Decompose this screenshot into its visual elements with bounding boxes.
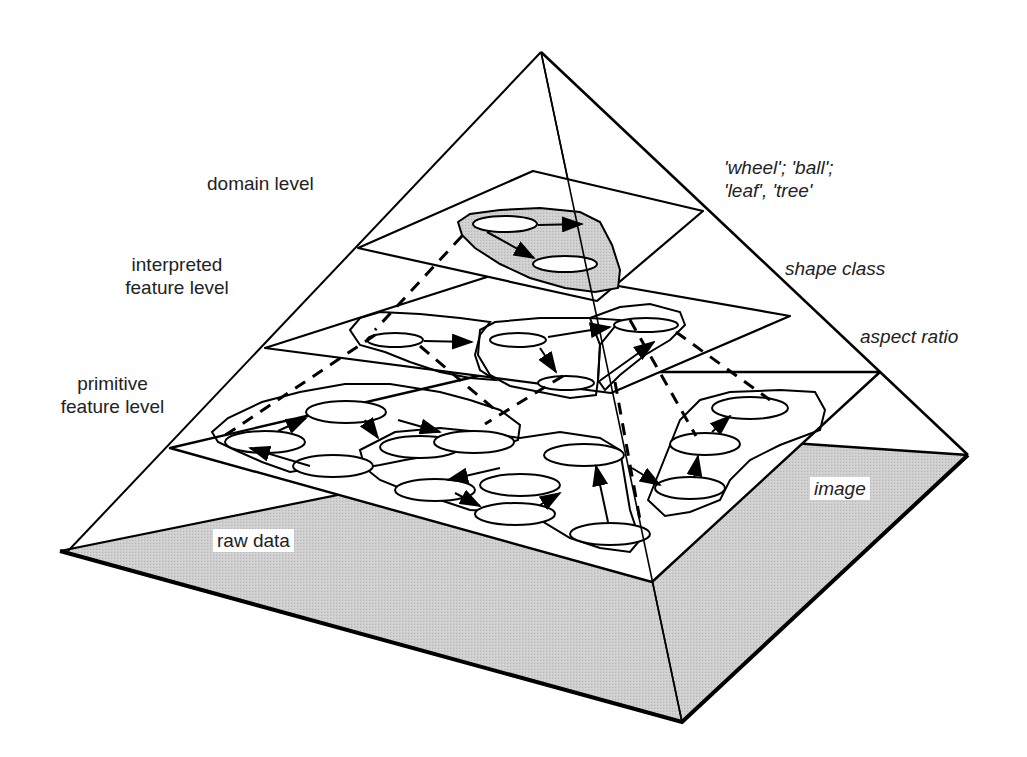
label-primitive-feature-level: primitive feature level [40, 372, 185, 418]
label-domain-level: domain level [207, 172, 314, 195]
label-raw-data: raw data [213, 529, 294, 552]
label-domain-examples-line2: 'leaf', 'tree' [724, 179, 834, 202]
label-shape-class: shape class [785, 257, 885, 280]
label-image: image [810, 477, 870, 500]
label-primitive-line2: feature level [40, 395, 185, 418]
label-interpreted-line2: feature level [107, 276, 247, 299]
label-domain-examples: 'wheel'; 'ball'; 'leaf', 'tree' [724, 156, 834, 202]
label-primitive-line1: primitive [40, 372, 185, 395]
label-domain-examples-line1: 'wheel'; 'ball'; [724, 156, 834, 179]
label-interpreted-line1: interpreted [107, 253, 247, 276]
label-aspect-ratio: aspect ratio [860, 325, 958, 348]
label-interpreted-feature-level: interpreted feature level [107, 253, 247, 299]
